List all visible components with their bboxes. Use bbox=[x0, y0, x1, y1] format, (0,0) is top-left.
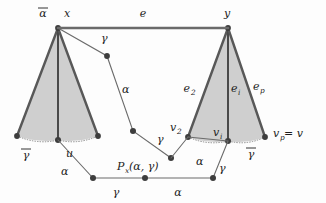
label-vi-subscript: i bbox=[220, 132, 222, 141]
right-fan-vertex-vp-node bbox=[262, 134, 268, 140]
label-bottom-alpha-right: α bbox=[174, 186, 182, 199]
label-top-edge-e: e bbox=[140, 7, 147, 20]
geometric-diagram: α x e y γ α γ u α γ α γ α γ γ P x (α, γ)… bbox=[0, 0, 326, 203]
label-ei-subscript: i bbox=[238, 88, 240, 97]
label-left-base-u: u bbox=[66, 147, 73, 160]
label-apex-y: y bbox=[223, 7, 231, 20]
label-v2-subscript: 2 bbox=[176, 127, 182, 136]
label-left-base-bar-gamma: γ bbox=[23, 149, 30, 162]
label-p-function: P bbox=[116, 160, 125, 173]
label-mid-alpha-right: α bbox=[196, 155, 204, 168]
label-left-base-bar-gamma-group: γ bbox=[21, 149, 31, 162]
figure-container: α x e y γ α γ u α γ α γ α γ γ P x (α, γ)… bbox=[0, 0, 326, 203]
label-vp-group: v p = v bbox=[273, 127, 304, 142]
label-ep: e bbox=[253, 80, 260, 93]
label-mid-gamma: γ bbox=[157, 133, 164, 146]
label-apex-bar-alpha-group: α bbox=[38, 7, 48, 20]
left-fan-group bbox=[14, 25, 101, 143]
label-p-args: (α, γ) bbox=[129, 160, 159, 173]
label-upper-gamma: γ bbox=[101, 32, 108, 45]
label-v2: v bbox=[170, 121, 177, 134]
lower-chain-node-3 bbox=[210, 175, 216, 181]
label-apex-x: x bbox=[64, 7, 71, 20]
label-p-function-group: P x (α, γ) bbox=[116, 160, 159, 175]
left-fan-base-right-node bbox=[95, 133, 101, 139]
mid-chain-to-v2 bbox=[171, 137, 188, 158]
label-e2-group: e 2 bbox=[183, 82, 196, 97]
left-fan-base-left-node bbox=[14, 133, 20, 139]
label-right-base-bar-gamma: γ bbox=[248, 148, 255, 161]
label-bottom-gamma-left: γ bbox=[113, 186, 120, 199]
label-vp-equals-v: = v bbox=[284, 127, 304, 140]
label-right-base-bar-gamma-group: γ bbox=[246, 148, 256, 161]
label-ep-subscript: p bbox=[260, 86, 265, 95]
label-vi: v bbox=[213, 126, 220, 139]
label-ep-group: e p bbox=[253, 80, 265, 95]
label-apex-bar-alpha: α bbox=[39, 7, 47, 20]
label-e2: e bbox=[183, 82, 190, 95]
lower-chain-node-2 bbox=[142, 175, 148, 181]
lower-chain-node-1 bbox=[90, 175, 96, 181]
label-e2-subscript: 2 bbox=[190, 88, 196, 97]
upper-chain-node-1 bbox=[104, 53, 110, 59]
label-vp: v bbox=[273, 127, 280, 140]
label-ei: e bbox=[231, 82, 238, 95]
label-upper-alpha: α bbox=[122, 83, 130, 96]
label-right-gamma: γ bbox=[219, 162, 226, 175]
label-v2-group: v 2 bbox=[170, 121, 182, 136]
upper-chain-node-2 bbox=[130, 128, 136, 134]
label-left-lower-alpha: α bbox=[61, 165, 69, 178]
